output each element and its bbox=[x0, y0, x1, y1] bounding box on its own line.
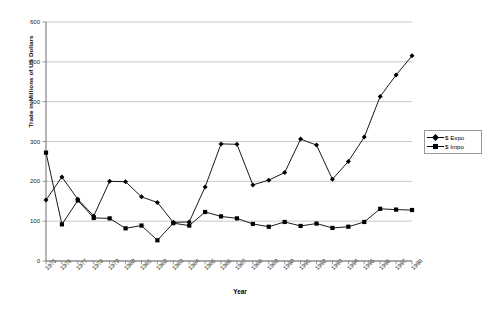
legend-label-imports: $ Impo bbox=[444, 143, 464, 150]
chart-legend: $ Expo $ Impo bbox=[424, 130, 482, 154]
legend-item-imports: $ Impo bbox=[427, 142, 479, 151]
legend-key-exports bbox=[427, 133, 444, 142]
legend-label-exports: $ Expo bbox=[444, 134, 464, 141]
legend-item-exports: $ Expo bbox=[427, 133, 479, 142]
legend-key-imports bbox=[427, 142, 444, 151]
